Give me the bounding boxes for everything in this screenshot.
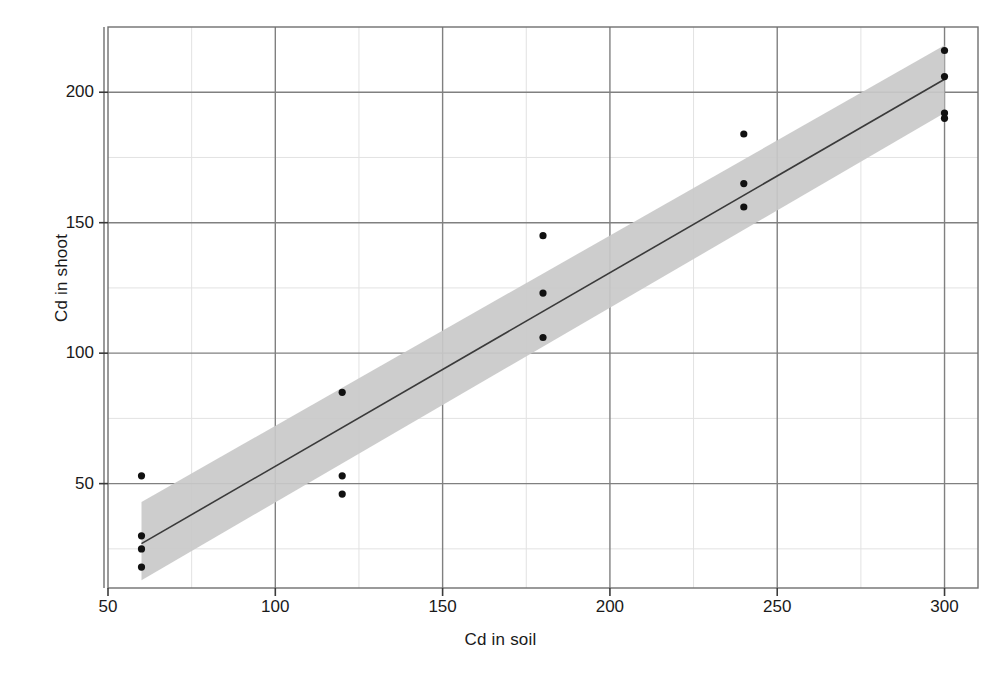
- data-point: [941, 47, 948, 54]
- regression-line: [141, 79, 944, 543]
- data-point: [539, 290, 546, 297]
- y-tick-label: 100: [48, 343, 94, 363]
- data-point: [539, 232, 546, 239]
- data-point: [138, 545, 145, 552]
- data-point: [941, 73, 948, 80]
- scatter-plot-figure: Cd in shoot Cd in soil 50100150200250300…: [0, 0, 1001, 675]
- y-axis-title: Cd in shoot: [52, 234, 72, 322]
- x-tick-label: 250: [763, 597, 791, 617]
- data-point: [740, 130, 747, 137]
- data-point: [339, 389, 346, 396]
- x-tick-label: 100: [261, 597, 289, 617]
- x-tick-label: 200: [596, 597, 624, 617]
- y-tick-label: 50: [48, 474, 94, 494]
- confidence-band: [142, 45, 945, 580]
- plot-canvas: [0, 0, 1001, 675]
- x-axis-title: Cd in soil: [0, 630, 1001, 650]
- data-point: [339, 491, 346, 498]
- data-point: [339, 472, 346, 479]
- data-point: [941, 115, 948, 122]
- data-point: [740, 180, 747, 187]
- data-point: [138, 472, 145, 479]
- y-tick-label: 200: [48, 82, 94, 102]
- x-tick-label: 50: [99, 597, 118, 617]
- data-point: [740, 203, 747, 210]
- x-tick-label: 300: [930, 597, 958, 617]
- data-point: [138, 564, 145, 571]
- x-tick-label: 150: [428, 597, 456, 617]
- y-tick-label: 150: [48, 213, 94, 233]
- data-point: [138, 532, 145, 539]
- data-point: [539, 334, 546, 341]
